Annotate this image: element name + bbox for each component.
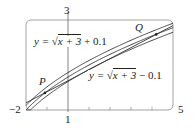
plot-area — [0, 0, 195, 132]
x-max-label: 5 — [178, 104, 184, 115]
radical-icon: √ — [52, 35, 58, 47]
viewing-rectangle — [26, 20, 173, 110]
x-min-label: −2 — [9, 104, 21, 115]
point-p-label: P — [39, 76, 46, 87]
point-q-label: Q — [135, 22, 143, 33]
y-max-label: 3 — [64, 5, 70, 16]
upper-curve-label: y = √x + 3 + 0.1 — [33, 36, 108, 47]
lower-curve-label: y = √x + 3 − 0.1 — [88, 70, 163, 81]
radical-icon: √ — [107, 69, 113, 81]
y-min-label: 1 — [65, 114, 71, 125]
x-ticks — [47, 107, 152, 110]
